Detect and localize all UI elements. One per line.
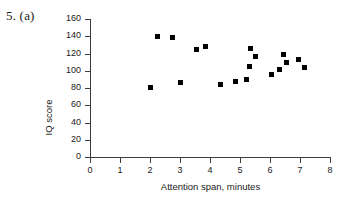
- data-point: [244, 77, 249, 82]
- y-tick-label-wrap: 60: [55, 100, 81, 110]
- data-point: [178, 80, 183, 85]
- x-tick-label: 2: [140, 166, 160, 175]
- y-tick-label-wrap: 20: [55, 135, 81, 145]
- data-point: [281, 52, 286, 57]
- chart-page: 5. (a) 020406080100120140160 012345678 I…: [0, 0, 351, 204]
- data-point: [284, 60, 289, 65]
- x-tick-label: 0: [80, 166, 100, 175]
- data-point: [170, 35, 175, 40]
- y-axis-title-holder: IQ score: [14, 50, 54, 110]
- x-tick: [150, 158, 151, 163]
- plot-area: [90, 19, 330, 157]
- x-tick: [120, 158, 121, 163]
- x-tick: [90, 158, 91, 163]
- x-tick: [210, 158, 211, 163]
- x-tick: [240, 158, 241, 163]
- x-tick-label: 5: [230, 166, 250, 175]
- x-tick-label: 1: [110, 166, 130, 175]
- y-tick-label: 100: [55, 66, 81, 75]
- data-point: [148, 85, 153, 90]
- y-tick-label-wrap: 140: [55, 31, 81, 41]
- data-point: [247, 64, 252, 69]
- data-point: [296, 57, 301, 62]
- y-tick-label: 160: [55, 14, 81, 23]
- x-tick-label: 4: [200, 166, 220, 175]
- x-tick: [270, 158, 271, 163]
- y-tick-label-wrap: 80: [55, 83, 81, 93]
- data-point: [203, 44, 208, 49]
- x-tick-label: 6: [260, 166, 280, 175]
- x-tick: [180, 158, 181, 163]
- x-tick-label: 3: [170, 166, 190, 175]
- y-tick-label: 120: [55, 49, 81, 58]
- y-tick-label: 40: [55, 118, 81, 127]
- data-point: [302, 65, 307, 70]
- data-point: [277, 67, 282, 72]
- data-point: [155, 34, 160, 39]
- y-axis-title: IQ score: [43, 78, 54, 158]
- y-tick-label: 140: [55, 31, 81, 40]
- y-tick-label: 60: [55, 100, 81, 109]
- data-point: [194, 47, 199, 52]
- y-tick-label: 80: [55, 83, 81, 92]
- data-point: [233, 79, 238, 84]
- x-tick: [330, 158, 331, 163]
- y-tick-label-wrap: 160: [55, 14, 81, 24]
- y-tick-label-wrap: 0: [55, 152, 81, 162]
- data-point: [269, 72, 274, 77]
- y-tick-label-wrap: 40: [55, 118, 81, 128]
- x-tick-label: 8: [320, 166, 340, 175]
- x-tick: [300, 158, 301, 163]
- data-point: [248, 46, 253, 51]
- y-tick-label: 20: [55, 135, 81, 144]
- y-tick-label-wrap: 100: [55, 66, 81, 76]
- x-tick-label: 7: [290, 166, 310, 175]
- data-point: [253, 54, 258, 59]
- question-label: 5. (a): [6, 8, 35, 24]
- data-point: [218, 82, 223, 87]
- y-tick-label-wrap: 120: [55, 49, 81, 59]
- x-axis-title: Attention span, minutes: [90, 181, 331, 192]
- y-tick-label: 0: [55, 152, 81, 161]
